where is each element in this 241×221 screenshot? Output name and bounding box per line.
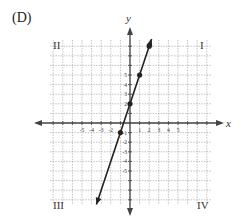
y-tick-label: -3: [122, 149, 127, 155]
x-tick-label: 5: [177, 127, 180, 133]
x-tick-label: -3: [99, 127, 104, 133]
x-tick-label: -4: [89, 127, 94, 133]
x-tick-label: 3: [157, 127, 160, 133]
data-point: [118, 130, 123, 135]
quadrant-label-iii: III: [53, 199, 64, 211]
y-tick-label: -1: [122, 130, 127, 136]
y-tick-label: 3: [124, 91, 127, 97]
y-tick-label: -2: [122, 139, 127, 145]
x-tick-label: 4: [167, 127, 170, 133]
data-point: [147, 44, 152, 49]
quadrant-label-iv: IV: [197, 199, 209, 211]
y-axis-label: y: [125, 12, 131, 24]
y-axis-down-arrow-icon: [127, 208, 133, 216]
quadrant-label-i: I: [200, 39, 204, 51]
plotted-line: [96, 39, 152, 205]
data-point: [137, 72, 142, 77]
function-line: [96, 39, 151, 205]
line-arrow-down-icon: [96, 197, 102, 205]
y-tick-label: -5: [122, 168, 127, 174]
y-axis-up-arrow-icon: [127, 27, 133, 35]
x-tick-label: -5: [80, 127, 85, 133]
y-tick-label: -4: [122, 158, 127, 164]
coordinate-plane-graph: xy -5-4-3-2123455432-1-2-3-4-5 IIIIIIIV: [0, 0, 241, 221]
x-axis-label: x: [225, 117, 231, 129]
y-tick-label: 5: [124, 72, 127, 78]
x-tick-label: -2: [109, 127, 114, 133]
x-axis-left-arrow-icon: [34, 120, 42, 126]
quadrant-labels: IIIIIIIV: [53, 39, 209, 211]
y-tick-label: 4: [124, 82, 127, 88]
x-tick-label: 1: [138, 127, 141, 133]
data-point: [127, 101, 132, 106]
x-axis-right-arrow-icon: [216, 120, 224, 126]
x-tick-label: 2: [148, 127, 151, 133]
y-tick-label: 2: [124, 101, 127, 107]
quadrant-label-ii: II: [53, 39, 61, 51]
